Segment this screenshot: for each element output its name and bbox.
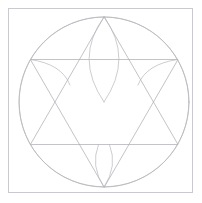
geometric-figure	[0, 0, 202, 203]
drawing-canvas	[0, 0, 202, 203]
canvas-background	[0, 0, 202, 203]
